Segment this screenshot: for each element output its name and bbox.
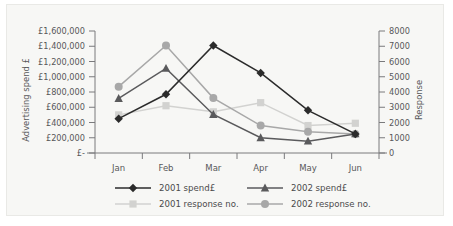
y-axis-left-tick-label: £1,200,000 (38, 57, 85, 67)
y-axis-left-tick-label: £- (77, 148, 85, 158)
chart-card: Advertising spend £ £1,600,000£1,400,000… (6, 4, 444, 216)
legend-label: 2002 response no. (291, 199, 371, 209)
data-point (115, 83, 123, 91)
y-axis-right-tick-label: 5000 (389, 72, 410, 82)
legend-label: 2001 response no. (159, 199, 239, 209)
y-axis-right-title: Response (414, 80, 424, 120)
y-axis-right-group: Response 8000700060005000400030002000100… (379, 26, 424, 158)
y-axis-right-tick-label: 8000 (389, 26, 410, 36)
y-axis-left-tick-label: £1,400,000 (38, 41, 85, 51)
data-point (257, 122, 265, 130)
y-axis-left-tick-label: £1,600,000 (38, 26, 85, 36)
series-line (119, 68, 356, 141)
y-axis-left-group: Advertising spend £ £1,600,000£1,400,000… (21, 26, 95, 158)
chart-legend: 2001 spend£2002 spend£2001 response no.2… (115, 183, 371, 209)
legend-item-2002-response-no[interactable]: 2002 response no. (247, 199, 371, 209)
y-axis-left-tick-label: £600,000 (46, 102, 85, 112)
legend-swatch-marker (129, 200, 136, 207)
y-axis-left-title: Advertising spend £ (21, 58, 31, 141)
y-axis-left-tick-label: £400,000 (46, 118, 85, 128)
x-axis-tick-label-apr: Apr (253, 163, 268, 173)
y-axis-right-tick-label: 0 (389, 148, 394, 158)
series-2001-spend (114, 41, 359, 138)
legend-label: 2002 spend£ (291, 183, 347, 193)
x-axis-tick-label-may: May (299, 163, 317, 173)
data-point (162, 64, 170, 72)
x-axis-tick-label-feb: Feb (158, 163, 173, 173)
data-point (162, 41, 170, 49)
legend-item-2001-spend[interactable]: 2001 spend£ (115, 183, 215, 193)
legend-swatch-marker (261, 200, 269, 208)
x-axis-tick-label-jan: Jan (111, 163, 125, 173)
legend-item-2002-spend[interactable]: 2002 spend£ (247, 183, 347, 193)
y-axis-right-tick-label: 4000 (389, 87, 410, 97)
data-point (114, 94, 122, 102)
data-point (257, 99, 264, 106)
y-axis-right-tick-label: 3000 (389, 102, 410, 112)
y-axis-left-tick-label: £800,000 (46, 87, 85, 97)
advertising-spend-response-chart: Advertising spend £ £1,600,000£1,400,000… (7, 5, 445, 217)
screenshot-root: Advertising spend £ £1,600,000£1,400,000… (0, 0, 453, 226)
y-axis-left-tick-label: £200,000 (46, 133, 85, 143)
series-2002-response-no (115, 41, 360, 137)
legend-item-2001-response-no[interactable]: 2001 response no. (115, 199, 239, 209)
series-line (119, 103, 356, 126)
series-2001-response-no (115, 99, 359, 129)
x-axis-tick-label-mar: Mar (205, 163, 222, 173)
series-line (119, 45, 356, 133)
y-axis-left-tick-label: £1,000,000 (38, 72, 85, 82)
series-layer (114, 41, 359, 144)
x-axis-tick-label-jun: Jun (348, 163, 362, 173)
y-axis-right-tick-label: 7000 (389, 41, 410, 51)
y-axis-right-tick-label: 1000 (389, 133, 410, 143)
x-axis-group: JanFebMarAprMayJun (87, 153, 387, 173)
legend-swatch-marker (129, 184, 137, 192)
legend-label: 2001 spend£ (159, 183, 215, 193)
data-point (352, 120, 359, 127)
data-point (209, 94, 217, 102)
data-point (162, 102, 169, 109)
y-axis-right-tick-label: 2000 (389, 118, 410, 128)
data-point (304, 128, 312, 136)
y-axis-right-tick-label: 6000 (389, 57, 410, 67)
